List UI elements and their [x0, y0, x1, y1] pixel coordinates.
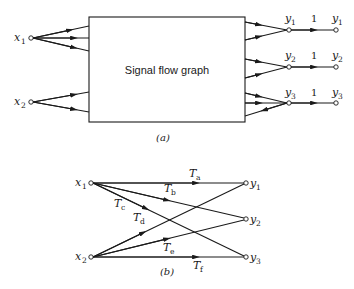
node-b-x2: [89, 255, 93, 259]
node-y3: [287, 101, 291, 105]
label-b-y1-sub: 1: [256, 183, 261, 192]
diagram-a: Signal flow graph x 1 x 2: [14, 12, 343, 143]
branch-label-td-sub: d: [140, 217, 145, 226]
output-y2: y 2 1 y 2: [245, 49, 343, 78]
label-x1-sub: 1: [21, 37, 26, 46]
node-b-y3: [244, 255, 248, 259]
node-y2-out: [334, 65, 338, 69]
caption-a: (a): [156, 132, 170, 143]
label-b-y3-sub: 3: [256, 257, 261, 266]
branch-label-tc-sub: c: [121, 203, 125, 212]
caption-b: (b): [160, 266, 174, 277]
node-y1: [287, 28, 291, 32]
label-y2-out-sub: 2: [338, 55, 343, 64]
gain-y2: 1: [311, 50, 317, 61]
node-y2: [287, 65, 291, 69]
input-x1-branches: [33, 26, 89, 51]
node-b-x1: [89, 181, 93, 185]
node-x1: [29, 36, 33, 40]
label-b-x2-sub: 2: [82, 256, 87, 265]
node-x2: [29, 100, 33, 104]
box-label: Signal flow graph: [125, 64, 209, 76]
label-x2: x: [14, 95, 21, 108]
input-x2-branches: [33, 92, 89, 112]
node-y1-out: [334, 28, 338, 32]
gain-y3: 1: [311, 87, 317, 98]
output-y3: y 3 1 y 3: [245, 86, 343, 116]
label-y3-sub: 3: [291, 92, 296, 101]
label-b-x1-sub: 1: [82, 182, 87, 191]
label-y1-sub: 1: [291, 18, 296, 27]
diagram-b: x 1 x 2 y 1 y 2 y 3 T a T b T c T d T e …: [75, 167, 261, 277]
output-y1: y 1 1 y 1: [245, 12, 343, 40]
branch-label-tb-sub: b: [171, 188, 176, 197]
label-y2-sub: 2: [291, 55, 296, 64]
signal-flow-figure: Signal flow graph x 1 x 2: [0, 0, 354, 289]
branch-label-tf-sub: f: [200, 265, 204, 274]
label-y3-out-sub: 3: [338, 92, 343, 101]
label-b-x1: x: [75, 176, 82, 189]
label-x2-sub: 2: [21, 101, 26, 110]
label-x1: x: [14, 31, 21, 44]
label-b-x2: x: [75, 250, 82, 263]
label-y1-out-sub: 1: [338, 18, 343, 27]
gain-y1: 1: [311, 13, 317, 24]
node-b-y2: [244, 217, 248, 221]
branch-label-te-sub: e: [170, 247, 175, 256]
branch-label-ta-sub: a: [196, 173, 201, 182]
node-y3-out: [334, 101, 338, 105]
node-b-y1: [244, 181, 248, 185]
label-b-y2-sub: 2: [256, 219, 261, 228]
